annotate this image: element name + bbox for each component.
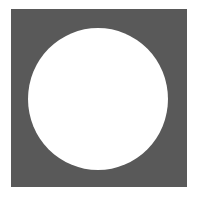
white-circle [28,28,168,170]
